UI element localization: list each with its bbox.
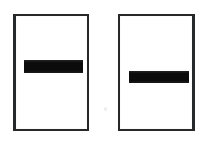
bordered-box-left bbox=[13, 14, 89, 131]
scanned-document-page bbox=[0, 0, 211, 144]
redaction-bar-left bbox=[24, 60, 83, 73]
redaction-bar-right bbox=[129, 71, 189, 83]
scan-artifact-speck bbox=[104, 107, 107, 111]
bordered-box-right bbox=[118, 14, 195, 131]
